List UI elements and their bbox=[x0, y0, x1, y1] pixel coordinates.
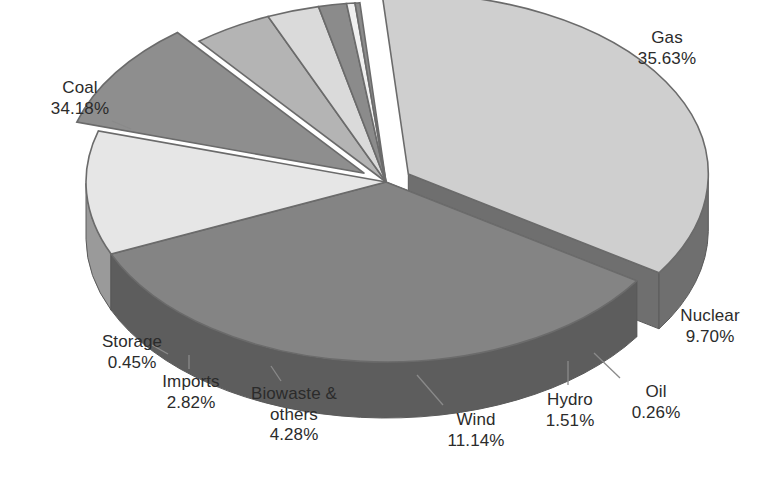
slice-label-name-nuclear: Nuclear bbox=[660, 306, 760, 327]
slice-label-value-storage: 0.45% bbox=[80, 353, 184, 374]
slice-label-name-imports: Imports bbox=[143, 372, 239, 393]
slice-label-oil: Oil0.26% bbox=[614, 382, 698, 423]
slice-label-name-storage: Storage bbox=[80, 332, 184, 353]
slice-label-value-gas: 35.63% bbox=[602, 49, 732, 70]
slice-label-coal: Coal34.18% bbox=[20, 78, 140, 119]
slice-label-name-oil: Oil bbox=[614, 382, 698, 403]
slice-label-value-coal: 34.18% bbox=[20, 99, 140, 120]
slice-label-name-coal: Coal bbox=[20, 78, 140, 99]
slice-label-name-biowaste: Biowaste & others bbox=[230, 384, 358, 425]
slice-label-wind: Wind11.14% bbox=[430, 410, 522, 451]
pie-chart: Gas35.63%Coal34.18%Nuclear9.70%Oil0.26%H… bbox=[0, 0, 772, 493]
slice-label-value-oil: 0.26% bbox=[614, 403, 698, 424]
slice-label-hydro: Hydro1.51% bbox=[528, 390, 612, 431]
slice-label-value-biowaste: 4.28% bbox=[230, 425, 358, 446]
slice-label-name-hydro: Hydro bbox=[528, 390, 612, 411]
slice-label-name-wind: Wind bbox=[430, 410, 522, 431]
slice-label-value-imports: 2.82% bbox=[143, 393, 239, 414]
slice-label-value-nuclear: 9.70% bbox=[660, 327, 760, 348]
slice-label-value-wind: 11.14% bbox=[430, 431, 522, 452]
slice-label-storage: Storage0.45% bbox=[80, 332, 184, 373]
slice-label-gas: Gas35.63% bbox=[602, 28, 732, 69]
slice-label-imports: Imports2.82% bbox=[143, 372, 239, 413]
slice-label-value-hydro: 1.51% bbox=[528, 411, 612, 432]
slice-label-biowaste: Biowaste & others4.28% bbox=[230, 384, 358, 446]
slice-label-name-gas: Gas bbox=[602, 28, 732, 49]
slice-label-nuclear: Nuclear9.70% bbox=[660, 306, 760, 347]
